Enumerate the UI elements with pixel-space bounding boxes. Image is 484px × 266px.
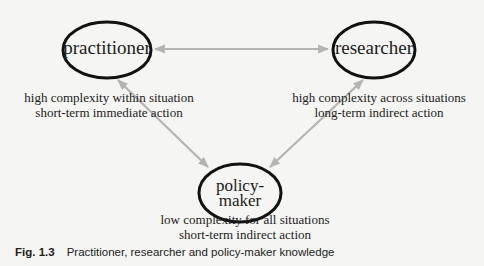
practitioner-label: practitioner (63, 38, 151, 58)
researcher-description-line-1: high complexity across situations (282, 90, 476, 105)
figure: practitioner researcher policy- maker hi… (0, 0, 484, 266)
researcher-label: researcher (333, 38, 415, 58)
researcher-description-line-2: long-term indirect action (282, 105, 476, 120)
practitioner-description: high complexity within situation short-t… (14, 90, 204, 120)
practitioner-description-line-1: high complexity within situation (14, 90, 204, 105)
policymaker-label-line-2: maker (199, 193, 281, 208)
policymaker-label: policy- maker (199, 178, 281, 208)
policymaker-description-line-1: low complexity for all situations (150, 212, 340, 227)
researcher-description: high complexity across situations long-t… (282, 90, 476, 120)
policymaker-description-line-2: short-term indirect action (150, 227, 340, 242)
figure-caption-text: Practitioner, researcher and policy-make… (67, 246, 335, 258)
figure-number: Fig. 1.3 (15, 246, 55, 258)
figure-caption: Fig. 1.3Practitioner, researcher and pol… (15, 246, 334, 258)
policymaker-description: low complexity for all situations short-… (150, 212, 340, 242)
practitioner-description-line-2: short-term immediate action (14, 105, 204, 120)
